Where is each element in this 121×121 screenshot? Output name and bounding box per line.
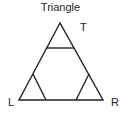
vertex-label-right: R — [111, 97, 119, 108]
right-corner-triangle — [76, 74, 89, 100]
triangle-diagram — [0, 0, 121, 121]
outer-triangle — [19, 23, 103, 100]
vertex-label-top: T — [80, 22, 87, 33]
left-corner-triangle — [33, 74, 46, 100]
vertex-label-left: L — [8, 97, 14, 108]
